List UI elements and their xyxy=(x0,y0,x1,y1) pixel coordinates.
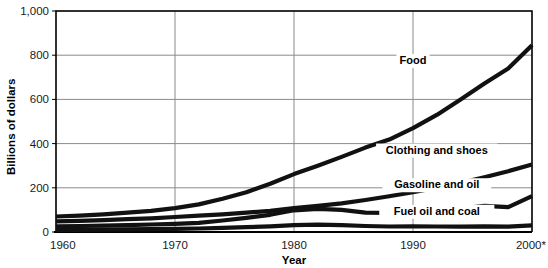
y-axis-title: Billions of dollars xyxy=(5,79,17,175)
x-tick-label: 1990 xyxy=(400,239,426,251)
plot-frame xyxy=(54,11,532,232)
y-tick-label: 0 xyxy=(43,226,49,238)
series-label: Fuel oil and coal xyxy=(394,205,480,217)
x-tick-label: 2000* xyxy=(516,239,547,251)
series-label: Food xyxy=(400,54,427,66)
x-tick-label: 1960 xyxy=(50,239,76,251)
x-axis-title: Year xyxy=(282,254,307,266)
y-tick-label: 800 xyxy=(30,49,49,61)
gridlines-group xyxy=(56,11,532,232)
x-tick-label: 1980 xyxy=(281,239,307,251)
series-label: Clothing and shoes xyxy=(386,144,488,156)
y-tick-label: 600 xyxy=(30,93,49,105)
y-tick-label: 200 xyxy=(30,182,49,194)
y-tick-label: 1,000 xyxy=(20,5,49,17)
series-label: Gasoline and oil xyxy=(394,178,479,190)
y-tick-label: 400 xyxy=(30,138,49,150)
x-tick-label: 1970 xyxy=(162,239,188,251)
chart-canvas: 02004006008001,000 19601970198019902000*… xyxy=(0,0,548,268)
y-axis-tick-labels: 02004006008001,000 xyxy=(20,5,56,238)
line-chart: 02004006008001,000 19601970198019902000*… xyxy=(0,0,548,268)
x-axis-tick-labels: 19601970198019902000* xyxy=(50,239,547,251)
